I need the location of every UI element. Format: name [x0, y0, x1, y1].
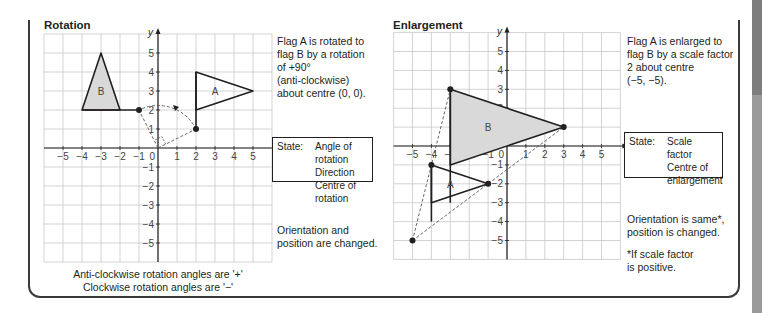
enlargement-shapes: xy−5−4−3−2−112345−5−4−3−2−1123450BA	[394, 26, 631, 260]
enlargement-description: Flag A is enlarged to flag B by a scale …	[627, 35, 733, 87]
svg-text:1: 1	[523, 149, 529, 160]
enlargement-note: Orientation is same*, position is change…	[627, 213, 724, 239]
state-item: Scale factor	[667, 135, 718, 161]
enlargement-footnote: *If scale factor is positive.	[627, 248, 694, 274]
svg-text:4: 4	[497, 65, 503, 76]
enlargement-state-box: State:Scale factor Centre of enlargement	[624, 132, 723, 178]
svg-text:−1: −1	[492, 159, 504, 170]
point-marker	[428, 162, 434, 168]
svg-text:3: 3	[497, 84, 503, 95]
svg-text:5: 5	[497, 46, 503, 57]
svg-text:0: 0	[498, 149, 504, 160]
svg-text:3: 3	[561, 149, 567, 160]
svg-text:−4: −4	[492, 216, 504, 227]
svg-text:A: A	[447, 179, 454, 190]
svg-text:2: 2	[542, 149, 548, 160]
point-marker	[561, 124, 567, 130]
svg-text:B: B	[485, 122, 492, 133]
point-marker	[485, 181, 491, 187]
svg-text:−3: −3	[492, 197, 504, 208]
y-axis-arrow-icon	[505, 27, 510, 33]
state-item: enlargement	[667, 174, 723, 187]
svg-text:−5: −5	[407, 149, 419, 160]
svg-text:5: 5	[599, 149, 605, 160]
point-marker	[410, 238, 416, 244]
point-marker	[447, 86, 453, 92]
svg-text:−4: −4	[426, 149, 438, 160]
state-label: State:	[629, 135, 667, 161]
svg-text:4: 4	[580, 149, 586, 160]
svg-text:−5: −5	[492, 235, 504, 246]
svg-text:y: y	[496, 26, 503, 37]
state-item: Centre of	[667, 161, 708, 174]
